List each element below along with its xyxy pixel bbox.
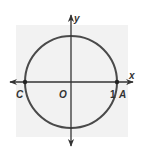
point-a-dot <box>115 80 119 84</box>
x-axis-label: x <box>128 70 135 81</box>
origin-label: O <box>59 89 67 100</box>
y-axis-label: y <box>73 13 80 24</box>
point-c-label: C <box>16 89 24 100</box>
background-square <box>16 25 128 137</box>
tick-label-one: 1 <box>110 89 116 100</box>
point-c-dot <box>23 80 27 84</box>
unit-circle-diagram: y x C O 1 A <box>0 0 144 152</box>
point-a-label: A <box>118 89 126 100</box>
